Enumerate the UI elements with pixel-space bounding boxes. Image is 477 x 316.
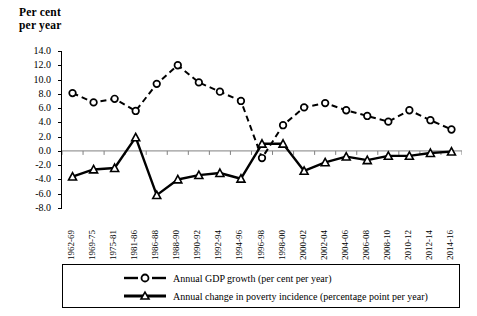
x-tick-label: 1969-75 [88,230,97,260]
data-point [279,140,287,147]
x-tick-label: 2000-02 [299,230,308,260]
data-point [90,99,97,106]
y-tick-label: 0.0 [39,146,52,156]
solid-open-triangle-key-icon [123,290,167,302]
y-axis-tick-labels: 14.012.010.08.06.04.02.00.0-2.0-4.0-6.0-… [14,51,58,208]
x-tick-label: 1990-92 [193,230,202,260]
data-point [90,165,98,172]
y-tick-label: 4.0 [39,117,52,127]
y-tick-label: 2.0 [39,132,52,142]
data-point [111,96,118,103]
y-axis-title-line-1: Per cent [19,6,61,19]
data-point [384,152,392,159]
y-tick-label: -4.0 [35,174,51,184]
data-point [196,79,203,86]
legend-item-gdp-growth: Annual GDP growth (per cent per year) [123,271,331,285]
y-tick-label: -8.0 [35,203,51,213]
x-tick-label: 1988-90 [172,230,181,260]
data-point [132,133,140,140]
legend-item-poverty-change: Annual change in poverty incidence (perc… [123,289,428,303]
data-point [406,107,413,114]
data-point [321,158,329,165]
y-tick-label: -2.0 [35,160,51,170]
x-axis-tick-labels: 1962-691969-751975-811981-861986-881988-… [62,210,462,262]
y-tick-label: 12.0 [34,60,52,70]
x-tick-label: 2008-10 [383,230,392,260]
data-point [427,117,434,124]
x-tick-label: 1975-81 [109,230,118,260]
chart-legend: Annual GDP growth (per cent per year) An… [62,264,460,308]
data-point [132,108,139,115]
data-point [301,104,308,111]
data-point [363,156,371,163]
data-point [259,155,266,162]
y-tick-label: 10.0 [34,75,52,85]
data-point [448,126,455,133]
data-point [447,148,455,155]
x-tick-label: 2010-12 [404,230,413,260]
data-point [174,62,181,69]
plot-area [62,51,462,208]
data-point [364,113,371,120]
x-tick-label: 1994-96 [235,230,244,260]
x-tick-label: 2006-08 [362,230,371,260]
data-point [343,107,350,114]
data-point [280,122,287,129]
data-point [153,81,160,88]
data-point [69,90,76,97]
legend-label-gdp-growth: Annual GDP growth (per cent per year) [173,273,331,284]
y-tick-label: 6.0 [39,103,52,113]
legend-label-poverty-change: Annual change in poverty incidence (perc… [173,291,428,302]
data-point [385,118,392,125]
x-tick-label: 1986-88 [151,230,160,260]
data-point [426,149,434,156]
data-point [216,169,224,176]
data-point [342,153,350,160]
dashed-open-circle-key-icon [123,272,167,284]
y-tick-label: -6.0 [35,189,51,199]
data-point [322,100,329,107]
x-tick-label: 1996-98 [257,230,266,260]
data-point [195,171,203,178]
x-tick-label: 2012-14 [425,230,434,260]
x-tick-label: 1962-69 [67,230,76,260]
x-tick-label: 2002-04 [320,230,329,260]
data-point [174,175,182,182]
x-tick-label: 2014-16 [446,230,455,260]
plot-svg [62,51,462,208]
x-tick-label: 1998-00 [278,230,287,260]
x-tick-label: 2004-06 [341,230,350,260]
data-point [69,173,77,180]
x-tick-label: 1981-86 [130,230,139,260]
chart-figure: Per cent per year 14.012.010.08.06.04.02… [0,0,477,316]
y-tick-label: 8.0 [39,89,52,99]
data-point [217,88,224,95]
y-tick-mark [58,208,62,209]
data-point [238,98,245,105]
data-point [258,140,266,147]
x-tick-label: 1992-94 [214,230,223,260]
y-axis-title-line-2: per year [19,19,62,32]
data-point [405,152,413,159]
y-tick-label: 14.0 [34,46,52,56]
